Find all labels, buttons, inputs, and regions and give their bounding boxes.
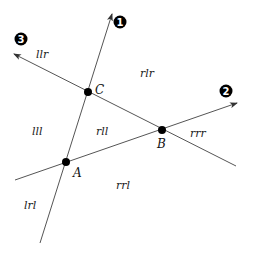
badge-number: 1 [117, 17, 124, 28]
region-label-lrl: lrl [24, 199, 37, 212]
region-label-rll: rll [96, 125, 109, 138]
line-2 [15, 103, 237, 180]
point-c [84, 88, 92, 96]
arrangement-diagram: llrrlrlllrllrrrrrllrl ABC 123 [0, 0, 253, 253]
region-label-llr: llr [36, 48, 49, 61]
point-b [158, 126, 166, 134]
region-label-lll: lll [32, 125, 43, 138]
line-number-badge-1: 1 [114, 16, 127, 29]
region-label-rlr: rlr [140, 67, 155, 80]
line-3 [14, 54, 236, 166]
point-a [62, 158, 70, 166]
line-number-badge-2: 2 [220, 85, 233, 98]
point-label-c: C [95, 83, 104, 97]
diagram-canvas: llrrlrlllrllrrrrrllrl ABC 123 [0, 0, 253, 253]
region-label-rrl: rrl [116, 179, 131, 192]
badge-number: 2 [223, 86, 230, 97]
line-number-badge-3: 3 [15, 33, 28, 46]
point-label-b: B [156, 137, 166, 151]
badge-number: 3 [18, 34, 25, 45]
region-label-rrr: rrr [190, 127, 207, 140]
point-label-a: A [72, 166, 82, 180]
